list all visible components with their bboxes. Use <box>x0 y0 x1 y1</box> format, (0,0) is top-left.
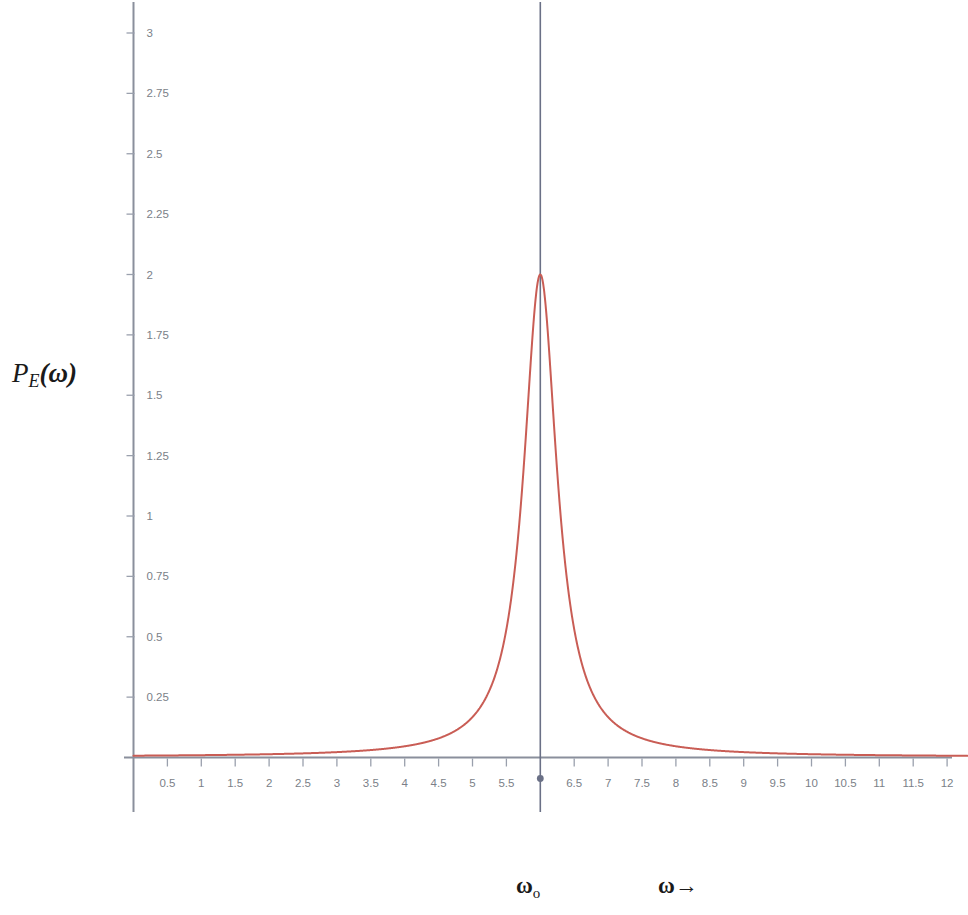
x-tick-label: 9 <box>740 777 746 789</box>
omega-zero-symbol: ω <box>516 873 533 898</box>
x-tick-label: 7 <box>605 777 611 789</box>
y-tick-label: 2.75 <box>147 87 169 99</box>
x-tick-label: 4 <box>401 777 408 789</box>
x-axis-label: ω→ <box>658 873 698 899</box>
y-axis-label-subscript: E <box>29 371 40 391</box>
x-tick-label: 5.5 <box>498 777 514 789</box>
y-tick-label: 0.25 <box>147 691 169 703</box>
x-tick-label: 2.5 <box>295 777 311 789</box>
x-tick-label: 0.5 <box>159 777 175 789</box>
y-axis-label-argument: (ω) <box>40 358 78 388</box>
x-tick-label: 3 <box>334 777 340 789</box>
y-tick-label: 0.5 <box>147 631 163 643</box>
y-axis-label-main: P <box>12 358 29 388</box>
y-tick-label: 1 <box>147 510 153 522</box>
y-tick-label: 1.25 <box>147 450 169 462</box>
lorentzian-resonance-plot-figure: 0.250.50.7511.251.51.7522.252.52.7530.51… <box>0 0 968 915</box>
lorentzian-curve <box>134 275 968 756</box>
omega-zero-subscript: o <box>533 885 541 901</box>
x-tick-label: 1.5 <box>227 777 243 789</box>
y-axis-label: PE(ω) <box>12 358 77 392</box>
omega-zero-label: ωo <box>516 873 540 902</box>
x-tick-label: 1 <box>198 777 204 789</box>
resonance-marker-dot <box>537 775 544 782</box>
x-tick-label: 8 <box>673 777 679 789</box>
tick-labels-group: 0.250.50.7511.251.51.7522.252.52.7530.51… <box>147 27 954 789</box>
x-tick-label: 11.5 <box>902 777 924 789</box>
x-tick-label: 7.5 <box>634 777 650 789</box>
x-tick-label: 10.5 <box>834 777 856 789</box>
plot-canvas: 0.250.50.7511.251.51.7522.252.52.7530.51… <box>0 0 968 915</box>
x-tick-label: 12 <box>941 777 954 789</box>
x-tick-label: 6.5 <box>566 777 582 789</box>
x-tick-label: 4.5 <box>431 777 447 789</box>
y-tick-label: 3 <box>147 27 153 39</box>
y-tick-label: 2.5 <box>147 148 163 160</box>
x-tick-label: 11 <box>873 777 885 789</box>
x-tick-label: 5 <box>469 777 475 789</box>
ticks-group <box>127 33 948 767</box>
x-tick-label: 10 <box>805 777 818 789</box>
y-tick-label: 1.75 <box>147 329 169 341</box>
curve-group <box>134 275 968 756</box>
y-tick-label: 2.25 <box>147 208 169 220</box>
x-tick-label: 2 <box>266 777 272 789</box>
y-tick-label: 2 <box>147 269 153 281</box>
y-tick-label: 0.75 <box>147 570 169 582</box>
y-tick-label: 1.5 <box>147 389 163 401</box>
x-tick-label: 3.5 <box>363 777 379 789</box>
x-tick-label: 8.5 <box>702 777 718 789</box>
x-tick-label: 9.5 <box>770 777 786 789</box>
axes-group <box>124 2 952 812</box>
